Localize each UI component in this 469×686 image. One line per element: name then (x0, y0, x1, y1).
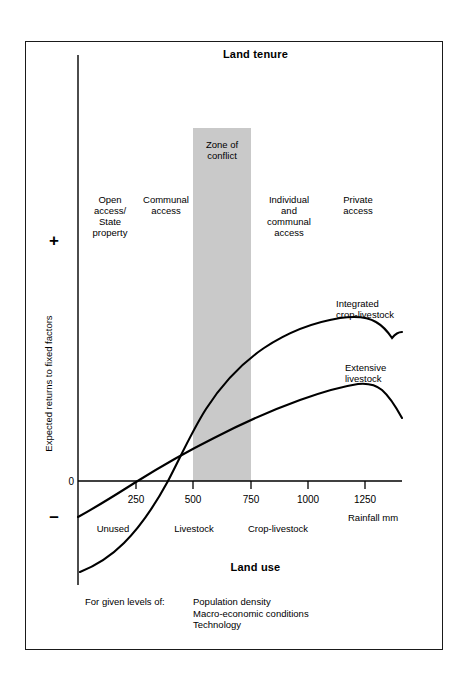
y-axis-title: Expected returns to fixed factors (43, 289, 54, 479)
tenure-label-communal-access: Communal access (135, 194, 197, 216)
x-tick-label-500: 500 (176, 494, 210, 505)
tenure-label-individual-communal-access: Individual and communal access (258, 194, 320, 238)
x-tick-label-1250: 1250 (348, 494, 382, 505)
x-tick-label-250: 250 (119, 494, 153, 505)
land-use-label-crop-livestock: Crop-livestock (232, 523, 324, 534)
figure-root: Land tenure Zone of conflict Open access… (0, 0, 469, 686)
land-use-label-unused: Unused (82, 523, 144, 534)
y-axis-zero-label: 0 (62, 476, 74, 487)
y-axis-negative-sign: – (46, 508, 62, 525)
zone-of-conflict-label: Zone of conflict (193, 139, 251, 161)
footer-assumptions-list: Population density Macro-economic condit… (193, 596, 393, 631)
tenure-label-open-access: Open access/ State property (82, 194, 138, 238)
figure-border (25, 41, 443, 650)
x-tick-label-750: 750 (234, 494, 268, 505)
x-tick-label-1000: 1000 (291, 494, 325, 505)
x-axis-title: Rainfall mm (348, 512, 428, 523)
land-use-label-livestock: Livestock (163, 523, 225, 534)
page-title-land-use: Land use (78, 561, 433, 573)
page-title-land-tenure: Land tenure (78, 48, 433, 60)
curve-label-extensive-livestock: Extensive livestock (345, 362, 435, 384)
footer-intro-text: For given levels of: (85, 596, 191, 607)
y-axis-positive-sign: + (46, 232, 62, 249)
curve-label-integrated-crop-livestock: Integrated crop-livestock (336, 298, 432, 320)
tenure-label-private-access: Private access (330, 194, 386, 216)
